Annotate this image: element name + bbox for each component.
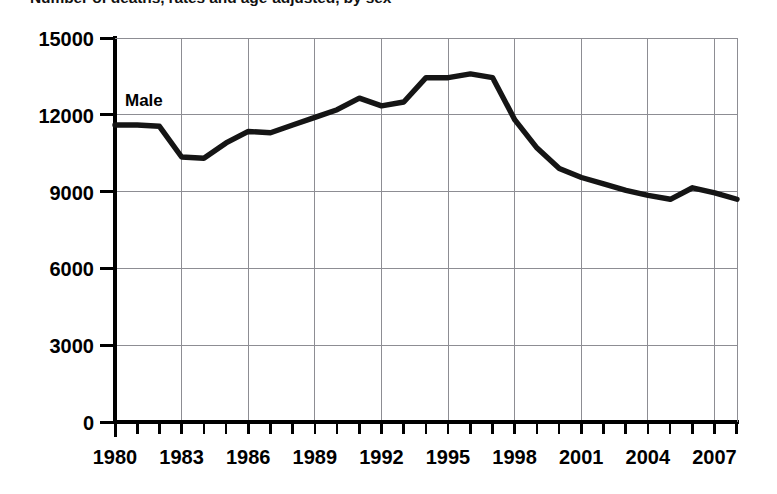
y-tick-label: 3000 — [50, 335, 95, 357]
y-tick-label: 15000 — [38, 28, 94, 50]
plot-background — [115, 38, 737, 422]
y-tick-label: 9000 — [50, 182, 95, 204]
x-axis — [113, 422, 738, 437]
x-tick-label: 1989 — [293, 446, 338, 468]
x-tick-label: 2001 — [559, 446, 604, 468]
x-tick-label: 1983 — [159, 446, 204, 468]
y-axis — [100, 36, 117, 423]
x-tick-label: 1998 — [492, 446, 537, 468]
x-tick-label: 1980 — [93, 446, 138, 468]
chart-figure: Number of deaths, rates and age-adjusted… — [0, 0, 777, 494]
x-tick-label: 1992 — [359, 446, 404, 468]
x-tick-label: 2004 — [626, 446, 671, 468]
y-tick-label: 12000 — [38, 105, 94, 127]
series-inline-label-male: Male — [125, 91, 163, 110]
y-axis-tick-labels: 15000 12000 9000 6000 3000 0 — [38, 28, 94, 434]
x-tick-label: 1995 — [426, 446, 471, 468]
line-chart-plot: 15000 12000 9000 6000 3000 0 — [0, 0, 777, 494]
x-tick-label: 1986 — [226, 446, 271, 468]
y-tick-label: 0 — [83, 412, 94, 434]
x-tick-label: 2007 — [692, 446, 737, 468]
y-tick-label: 6000 — [50, 258, 95, 280]
x-axis-tick-labels: 1980 1983 1986 1989 1992 1995 1998 2001 … — [93, 446, 737, 468]
